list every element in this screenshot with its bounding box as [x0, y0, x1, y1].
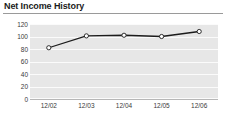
y-axis-tick-label: 40 — [2, 71, 28, 78]
y-axis-tick-label: 60 — [2, 58, 28, 65]
x-axis-line — [30, 99, 218, 100]
net-income-history-chart-widget: Net Income History 020406080100120 12/02… — [0, 0, 226, 121]
x-axis-tick-label: 12/03 — [66, 102, 106, 109]
data-point-marker — [47, 46, 51, 50]
x-axis-tick-label: 12/06 — [179, 102, 219, 109]
chart-plot-container: 020406080100120 12/0212/0312/0412/0512/0… — [0, 16, 226, 121]
y-axis-tick-label: 100 — [2, 33, 28, 40]
data-point-marker — [122, 33, 126, 37]
data-point-marker — [160, 34, 164, 38]
x-axis-tick-labels: 12/0212/0312/0412/0512/06 — [30, 102, 218, 116]
y-axis-tick-label: 120 — [2, 21, 28, 28]
x-axis-tick-label: 12/02 — [29, 102, 69, 109]
y-axis-tick-labels: 020406080100120 — [0, 24, 28, 99]
x-axis-tick-label: 12/04 — [104, 102, 144, 109]
data-point-marker — [84, 34, 88, 38]
data-point-marker — [197, 29, 201, 33]
y-axis-tick-label: 0 — [2, 96, 28, 103]
y-axis-tick-label: 20 — [2, 83, 28, 90]
title-divider — [3, 13, 223, 14]
data-series-group — [30, 24, 218, 99]
y-axis-tick-label: 80 — [2, 46, 28, 53]
page-title: Net Income History — [4, 1, 84, 11]
x-axis-tick-label: 12/05 — [142, 102, 182, 109]
series-markers-group — [47, 29, 202, 49]
